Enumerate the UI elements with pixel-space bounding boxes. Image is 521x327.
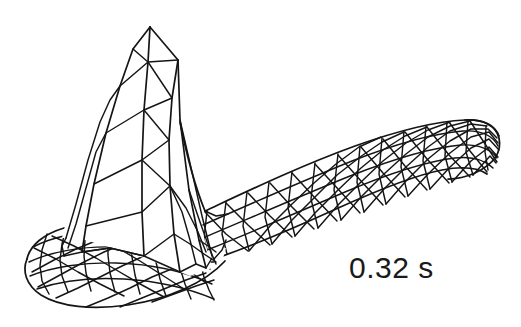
- wireframe-surface-plot: [0, 0, 521, 327]
- time-annotation-label: 0.32 s: [349, 251, 434, 285]
- figure-root: 0.32 s: [0, 0, 521, 327]
